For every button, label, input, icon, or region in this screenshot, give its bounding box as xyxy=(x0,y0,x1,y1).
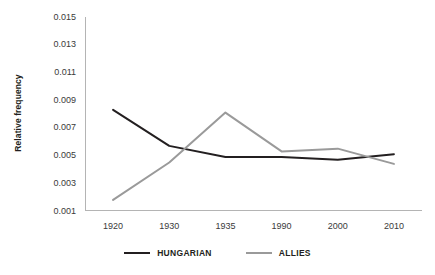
plot-area xyxy=(85,17,422,211)
y-axis-tick-label: 0.015 xyxy=(53,13,76,22)
y-axis-title-label: Relative frequency xyxy=(13,74,23,151)
series-lines xyxy=(113,110,394,200)
x-axis-tick-label: 1920 xyxy=(103,222,123,231)
y-axis-tick-label: 0.003 xyxy=(53,179,76,188)
y-axis-title: Relative frequency xyxy=(4,0,32,225)
legend-label: HUNGARIAN xyxy=(157,248,212,258)
y-axis-tick-label: 0.013 xyxy=(53,40,76,49)
chart-legend: HUNGARIANALLIES xyxy=(0,248,435,258)
x-axis-tick-label: 1935 xyxy=(215,222,235,231)
y-axis-tick-label: 0.011 xyxy=(54,68,76,77)
legend-line-swatch-icon xyxy=(124,252,150,254)
legend-line-swatch-icon xyxy=(246,252,272,254)
x-axis-tick-label: 1990 xyxy=(272,222,292,231)
y-axis-tick-labels: 0.0010.0030.0050.0070.0090.0110.0130.015 xyxy=(30,14,80,210)
x-axis-tick-labels: 192019301935199020002010 xyxy=(85,222,422,236)
legend-label: ALLIES xyxy=(279,248,311,258)
x-axis-tick-label: 2010 xyxy=(384,222,404,231)
y-axis-tick-label: 0.007 xyxy=(53,123,76,132)
legend-entry-hungarian[interactable]: HUNGARIAN xyxy=(124,248,212,258)
x-axis-tick-label: 2000 xyxy=(328,222,348,231)
legend-entry-allies[interactable]: ALLIES xyxy=(246,248,311,258)
x-axis-tick-label: 1930 xyxy=(159,222,179,231)
y-axis-tick-label: 0.009 xyxy=(53,96,76,105)
line-chart: Relative frequency 0.0010.0030.0050.0070… xyxy=(0,0,435,275)
y-axis-tick-label: 0.005 xyxy=(53,151,76,160)
y-axis-tick-label: 0.001 xyxy=(53,207,76,216)
